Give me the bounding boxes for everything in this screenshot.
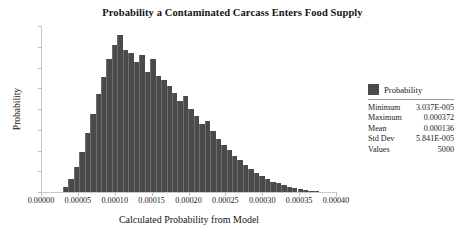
- x-axis-tick-label: 0.00030: [249, 196, 276, 205]
- y-axis-title: Probability: [4, 26, 30, 192]
- statistics-row: Maximum0.000372: [368, 113, 454, 123]
- histogram-bar: [314, 191, 319, 192]
- statistics-row: Std Dev5.841E-005: [368, 134, 454, 144]
- statistics-row: Mean0.000136: [368, 124, 454, 134]
- statistics-value: 5000: [408, 145, 454, 155]
- statistics-row: Minimum3.037E-005: [368, 103, 454, 113]
- x-axis-tick-label: 0.00025: [212, 196, 239, 205]
- statistics-table: Minimum3.037E-005Maximum0.000372Mean0.00…: [368, 103, 454, 155]
- legend-color-swatch-icon: [368, 84, 379, 95]
- x-axis-tick-labels: 0.000000.000050.000100.000150.000200.000…: [0, 196, 465, 208]
- legend-divider: [368, 99, 454, 100]
- x-axis-tick-label: 0.00020: [175, 196, 202, 205]
- statistics-value: 5.841E-005: [408, 134, 454, 144]
- legend-entry-probability: Probability: [368, 84, 454, 97]
- plot-area: [41, 26, 336, 192]
- chart-container: Probability a Contaminated Carcass Enter…: [0, 0, 465, 241]
- statistics-value: 0.000136: [408, 124, 454, 134]
- x-axis-tick-label: 0.00015: [138, 196, 165, 205]
- statistics-label: Maximum: [368, 113, 408, 123]
- statistics-label: Minimum: [368, 103, 408, 113]
- statistics-value: 3.037E-005: [408, 103, 454, 113]
- statistics-label: Values: [368, 145, 408, 155]
- statistics-label: Std Dev: [368, 134, 408, 144]
- x-axis-tick-label: 0.00040: [323, 196, 350, 205]
- x-axis-tick-label: 0.00000: [28, 196, 55, 205]
- histogram-bars: [41, 26, 336, 192]
- chart-title: Probability a Contaminated Carcass Enter…: [0, 7, 465, 18]
- x-axis-tick-label: 0.00005: [65, 196, 92, 205]
- legend-stats-box: Probability Minimum3.037E-005Maximum0.00…: [368, 84, 454, 155]
- x-axis-title: Calculated Probability from Model: [41, 214, 337, 225]
- x-axis-tick-label: 0.00010: [101, 196, 128, 205]
- legend-entry-label: Probability: [384, 85, 422, 95]
- statistics-value: 0.000372: [408, 113, 454, 123]
- x-axis-tick-label: 0.00035: [286, 196, 313, 205]
- statistics-row: Values5000: [368, 145, 454, 155]
- statistics-label: Mean: [368, 124, 408, 134]
